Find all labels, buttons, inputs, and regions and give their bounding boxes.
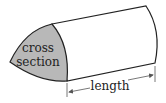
length-label: length xyxy=(91,79,130,93)
prism-diagram: cross section length xyxy=(0,0,166,103)
diagram: cross section length xyxy=(0,0,166,103)
cross-label-line2: section xyxy=(16,55,60,69)
cross-label-line1: cross xyxy=(22,41,54,55)
